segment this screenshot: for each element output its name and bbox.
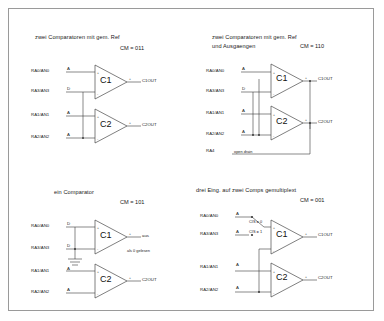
quadrant-cm-011: zwei Comparatoren mit gem. Ref CM = 011 … <box>9 9 192 161</box>
svg-text:+: + <box>305 275 307 279</box>
quadrant-cm-101: ein Comparator CM = 101 RA0/AN0 D RA3/AN… <box>9 161 192 312</box>
svg-text:-: - <box>97 292 98 296</box>
svg-text:-: - <box>273 249 274 253</box>
svg-text:-: - <box>273 134 274 138</box>
svg-text:+: + <box>273 270 275 274</box>
svg-text:+: + <box>305 118 307 122</box>
quadrant-cm-001: drei Eing. auf zwei Comps gemultiplext C… <box>192 161 375 312</box>
svg-text:-: - <box>97 92 98 96</box>
svg-text:+: + <box>97 115 99 119</box>
svg-text:-: - <box>273 291 274 295</box>
svg-text:-: - <box>97 137 98 141</box>
svg-text:+: + <box>129 232 131 236</box>
circuit-wires: + - + - + + <box>192 161 375 312</box>
svg-text:+: + <box>129 276 131 280</box>
svg-text:+: + <box>97 71 99 75</box>
svg-text:-: - <box>273 92 274 96</box>
circuit-wires: + - + - + + <box>9 9 192 161</box>
svg-text:+: + <box>97 226 99 230</box>
svg-text:+: + <box>273 113 275 117</box>
svg-text:-: - <box>97 247 98 251</box>
svg-text:+: + <box>273 71 275 75</box>
diagram-frame: zwei Comparatoren mit gem. Ref CM = 011 … <box>8 8 374 311</box>
quadrant-cm-110: zwei Comparatoren mit gem. Ref und Ausga… <box>192 9 375 161</box>
svg-text:+: + <box>273 226 275 230</box>
svg-text:+: + <box>305 76 307 80</box>
circuit-wires: + - + - + + <box>192 9 375 161</box>
svg-text:+: + <box>97 270 99 274</box>
circuit-wires: + - + - + + <box>9 161 192 312</box>
svg-text:+: + <box>305 232 307 236</box>
svg-text:+: + <box>129 77 131 81</box>
svg-text:+: + <box>129 121 131 125</box>
